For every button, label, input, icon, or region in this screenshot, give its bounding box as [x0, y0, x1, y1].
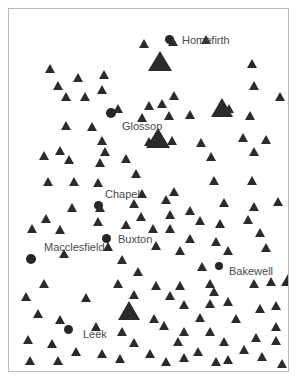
settlement-label: Homefirth — [182, 35, 230, 46]
settlement-label: Buxton — [118, 234, 152, 245]
settlement-label: Macclesfield — [44, 242, 105, 253]
settlement-label: Bakewell — [229, 266, 273, 277]
scatter-map-figure: HomefirthGlossopChapelBuxtonMacclesfield… — [0, 0, 300, 387]
settlement-label: Chapel — [105, 189, 140, 200]
settlement-label: Leek — [83, 329, 107, 340]
settlement-label: Glossop — [122, 121, 162, 132]
plot-area: HomefirthGlossopChapelBuxtonMacclesfield… — [8, 8, 289, 372]
label-layer: HomefirthGlossopChapelBuxtonMacclesfield… — [9, 9, 288, 371]
